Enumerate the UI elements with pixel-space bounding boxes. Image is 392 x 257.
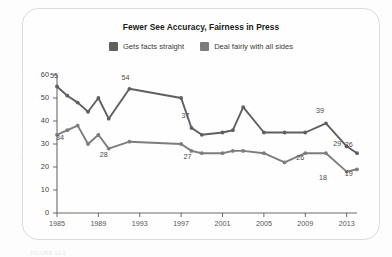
y-axis-tick-label: 60 [33, 70, 49, 79]
legend-swatch-gets-facts-straight [109, 42, 118, 51]
y-axis-tick-label: 50 [33, 93, 49, 102]
x-axis-tick-label: 1985 [44, 219, 70, 228]
x-axis-tick-label: 1997 [168, 219, 194, 228]
legend-swatch-deal-fairly [200, 42, 209, 51]
data-point-label: 54 [121, 73, 129, 82]
y-axis-tick-label: 10 [33, 185, 49, 194]
figure-caption: FIGURE 11-1 [30, 250, 66, 256]
legend-item-gets-facts-straight[interactable]: Gets facts straight [109, 42, 184, 51]
legend-label-deal-fairly: Deal fairly with all sides [214, 42, 293, 51]
chart-legend: Gets facts straight Deal fairly with all… [22, 42, 380, 51]
x-axis-tick-label: 2013 [334, 219, 360, 228]
x-axis-tick-label: 1989 [85, 219, 111, 228]
y-axis-tick-label: 30 [33, 139, 49, 148]
legend-label-gets-facts-straight: Gets facts straight [123, 42, 184, 51]
y-axis-tick-label: 20 [33, 162, 49, 171]
data-point-label: 26 [296, 153, 304, 162]
data-point-label: 27 [183, 152, 191, 161]
figure-root: Based on data from www.people-press.org … [0, 0, 392, 257]
data-point-label: 28 [100, 150, 108, 159]
y-axis-tick-label: 40 [33, 116, 49, 125]
chart-title: Fewer See Accuracy, Fairness in Press [22, 22, 380, 32]
legend-item-deal-fairly[interactable]: Deal fairly with all sides [200, 42, 293, 51]
x-axis-tick-label: 2005 [251, 219, 277, 228]
data-point-label: 26 [345, 140, 353, 149]
data-point-label: 19 [345, 169, 353, 178]
data-point-label: 29 [333, 139, 341, 148]
data-point-label: 55 [50, 71, 58, 80]
x-axis-tick-label: 2009 [292, 219, 318, 228]
x-axis-tick-label: 1993 [127, 219, 153, 228]
data-point-label: 39 [316, 106, 324, 115]
data-point-label: 34 [56, 133, 64, 142]
x-axis-tick-label: 2001 [210, 219, 236, 228]
y-axis-tick-label: 0 [33, 208, 49, 217]
data-point-label: 18 [319, 173, 327, 182]
data-point-label: 37 [181, 111, 189, 120]
